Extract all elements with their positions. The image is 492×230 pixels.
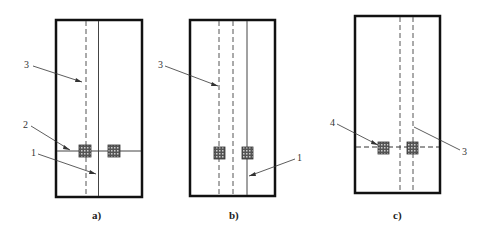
caption-b: b) [229, 209, 239, 221]
caption-a: a) [92, 209, 101, 221]
label-3-b: 3 [158, 59, 163, 70]
panel-b [165, 20, 295, 196]
label-4-c: 4 [330, 117, 335, 128]
label-2-a: 2 [23, 119, 28, 130]
label-3-c: 3 [462, 146, 467, 157]
panel-a [31, 20, 142, 197]
label-3-a: 3 [24, 59, 29, 70]
diagram-canvas [0, 0, 492, 230]
caption-c: c) [393, 209, 402, 221]
label-1-b: 1 [297, 152, 302, 163]
panel-c [337, 16, 460, 193]
label-1-a: 1 [31, 147, 36, 158]
